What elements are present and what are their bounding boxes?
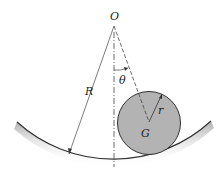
rolling-disk	[118, 92, 181, 155]
label-G: G	[141, 127, 150, 140]
label-theta: θ	[119, 74, 126, 87]
theta-arrowhead	[124, 67, 128, 71]
label-r: r	[158, 104, 164, 117]
label-O: O	[110, 10, 119, 23]
cylinder-in-circular-track-diagram: O R θ r G	[0, 0, 224, 176]
label-R: R	[84, 85, 93, 98]
